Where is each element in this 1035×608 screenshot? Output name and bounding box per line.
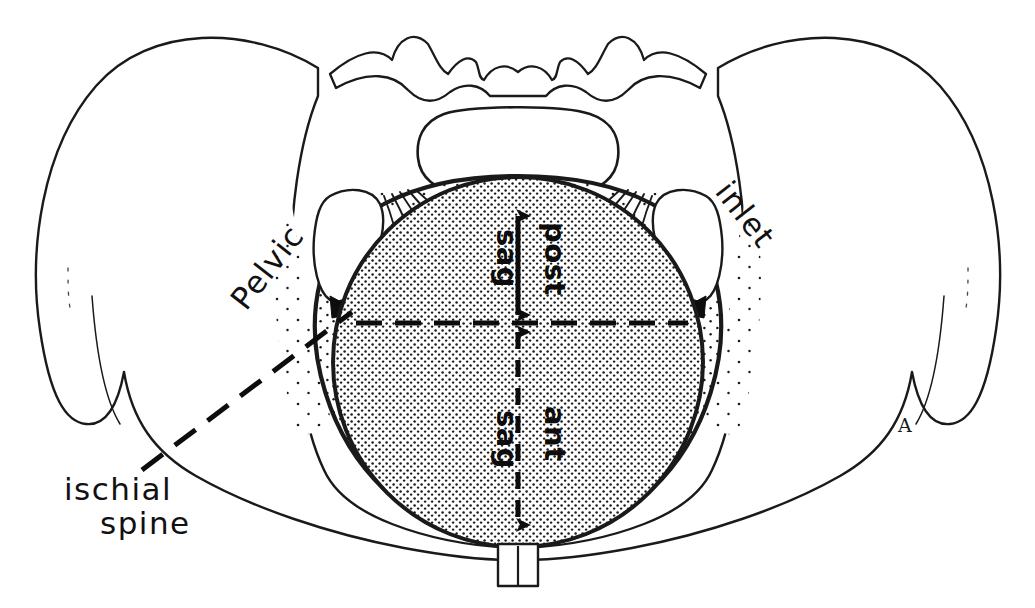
label-ant: ant [538, 406, 572, 462]
pubic-symphysis [498, 544, 538, 586]
label-post: post [538, 222, 572, 296]
sacrum-group [330, 37, 706, 198]
artist-signature: A [897, 414, 912, 436]
label-ischial-spine-line1: ischial [64, 471, 172, 507]
label-post-sag: sag [490, 229, 524, 288]
label-ant-sag: sag [490, 410, 524, 469]
pelvis-illustration: Pelvic inlet sag post sag ant ischial sp… [0, 0, 1035, 608]
label-ischial-spine-line2: spine [100, 505, 191, 541]
pelvic-inlet-figure: Pelvic inlet sag post sag ant ischial sp… [0, 0, 1035, 608]
vertebral-processes [330, 37, 706, 101]
